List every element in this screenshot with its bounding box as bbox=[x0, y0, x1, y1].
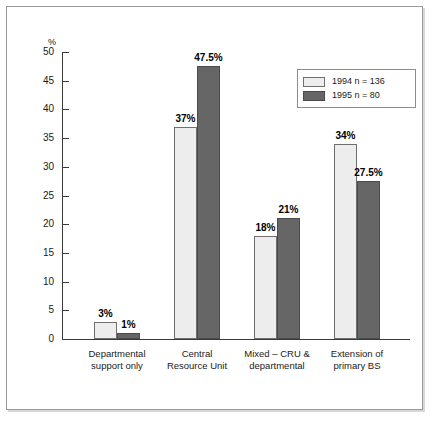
bar-1995[interactable] bbox=[117, 333, 140, 339]
y-axis-tick-label: 0 bbox=[28, 334, 54, 344]
y-axis-tick-label: 5 bbox=[28, 305, 54, 315]
y-axis-tick-label: 15 bbox=[28, 248, 54, 258]
legend-item-1995: 1995 n = 80 bbox=[303, 89, 410, 102]
bar-value-label: 34% bbox=[328, 131, 363, 141]
bar-value-label: 3% bbox=[88, 309, 123, 319]
bar-1994[interactable] bbox=[174, 127, 197, 339]
y-axis-tick-label: 45 bbox=[28, 76, 54, 86]
dark-swatch-icon bbox=[303, 91, 325, 101]
bar-value-label: 18% bbox=[248, 223, 283, 233]
legend-label-1995: 1995 n = 80 bbox=[332, 91, 380, 100]
bar-1995[interactable] bbox=[197, 66, 220, 339]
bar-1995[interactable] bbox=[357, 181, 380, 339]
y-axis-tick-label: 40 bbox=[28, 104, 54, 114]
bar-1994[interactable] bbox=[254, 236, 277, 339]
y-axis-tick-label: 25 bbox=[28, 191, 54, 201]
bar-value-label: 1% bbox=[111, 320, 146, 330]
y-axis-tick bbox=[62, 339, 69, 340]
legend-item-1994: 1994 n = 136 bbox=[303, 75, 410, 88]
y-axis-tick-label: 35 bbox=[28, 133, 54, 143]
light-swatch-icon bbox=[303, 77, 325, 87]
y-axis-tick-label: 10 bbox=[28, 277, 54, 287]
category-label: Extension of primary BS bbox=[308, 348, 406, 372]
chart-page: % 05101520253035404550 3%1%37%47.5%18%21… bbox=[0, 0, 436, 425]
legend-label-1994: 1994 n = 136 bbox=[332, 77, 385, 86]
bar-value-label: 47.5% bbox=[191, 53, 226, 63]
x-axis-line bbox=[62, 339, 410, 340]
bar-1995[interactable] bbox=[277, 218, 300, 339]
y-axis-tick-label: 20 bbox=[28, 219, 54, 229]
y-axis-tick-label: 50 bbox=[28, 47, 54, 57]
chart-legend: 1994 n = 136 1995 n = 80 bbox=[297, 69, 416, 108]
bar-value-label: 27.5% bbox=[351, 168, 386, 178]
y-axis-tick-label: 30 bbox=[28, 162, 54, 172]
bar-value-label: 37% bbox=[168, 114, 203, 124]
bar-value-label: 21% bbox=[271, 205, 306, 215]
